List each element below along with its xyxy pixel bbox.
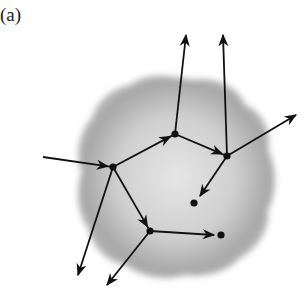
scattering-node: [190, 199, 197, 206]
scattering-node: [223, 152, 230, 159]
scattering-node: [171, 130, 178, 137]
scattering-node: [217, 231, 224, 238]
scattering-node: [146, 227, 153, 234]
scattering-medium-blob: [78, 76, 275, 278]
scattering-node: [109, 163, 116, 170]
particle-scattering-diagram: [0, 0, 307, 296]
